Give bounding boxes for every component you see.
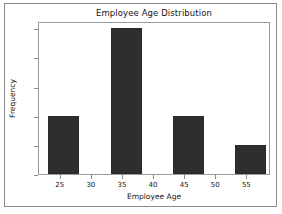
x-tick-label-50: 50	[200, 181, 230, 189]
x-axis-label: Employee Age	[38, 192, 270, 201]
x-tick-label-30: 30	[76, 181, 106, 189]
bar-35	[111, 28, 142, 174]
chart-figure: Employee Age Distribution Frequency 0123…	[0, 0, 282, 214]
chart-title: Employee Age Distribution	[38, 8, 270, 18]
x-tick-mark-50	[215, 175, 216, 179]
x-tick-mark-35	[122, 175, 123, 179]
x-tick-label-35: 35	[107, 181, 137, 189]
bars-container	[39, 23, 269, 174]
bar-25	[48, 116, 79, 174]
plot-area	[38, 22, 270, 175]
x-tick-mark-45	[184, 175, 185, 179]
x-tick-mark-55	[246, 175, 247, 179]
bar-45	[173, 116, 204, 174]
x-tick-label-40: 40	[138, 181, 168, 189]
x-tick-label-45: 45	[169, 181, 199, 189]
x-tick-mark-25	[60, 175, 61, 179]
x-tick-label-25: 25	[45, 181, 75, 189]
bar-55	[235, 145, 266, 174]
y-axis-label: Frequency	[8, 79, 17, 118]
x-tick-label-55: 55	[231, 181, 261, 189]
y-axis-label-container: Frequency	[6, 22, 18, 175]
x-tick-mark-40	[153, 175, 154, 179]
y-tick-mark-0	[34, 175, 38, 176]
x-tick-mark-30	[91, 175, 92, 179]
